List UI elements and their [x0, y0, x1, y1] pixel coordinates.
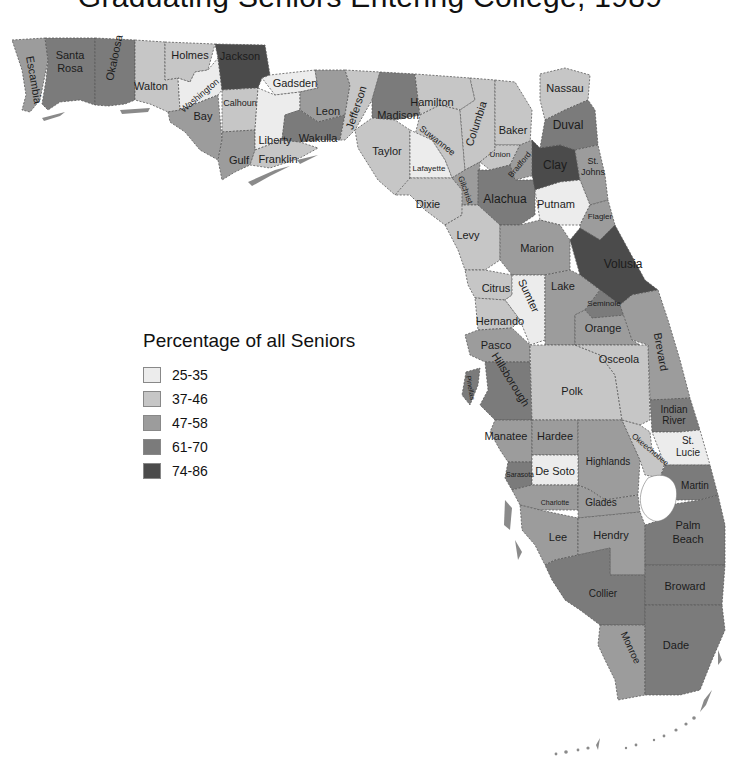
label-dixie: Dixie: [416, 198, 440, 210]
legend-label: 37-46: [172, 391, 208, 407]
label-jackson: Jackson: [220, 50, 260, 62]
label-glades: Glades: [585, 497, 617, 508]
legend-item: 74-86: [143, 460, 355, 482]
label-alachua: Alachua: [483, 192, 527, 206]
label-hamilton: Hamilton: [410, 96, 453, 108]
legend-item: 25-35: [143, 364, 355, 386]
label-franklin: Franklin: [258, 153, 297, 165]
legend-item: 61-70: [143, 436, 355, 458]
label-st-johns-2: Johns: [581, 167, 606, 177]
label-collier: Collier: [589, 588, 618, 599]
label-lafayette: Lafayette: [413, 164, 446, 173]
label-st-lucie-2: Lucie: [676, 447, 700, 458]
legend-swatch: [143, 391, 161, 407]
label-taylor: Taylor: [372, 145, 402, 157]
label-flagler: Flagler: [588, 212, 613, 221]
label-de-soto: De Soto: [535, 465, 575, 477]
label-st-johns-1: St.: [587, 156, 598, 166]
label-holmes: Holmes: [171, 49, 209, 61]
label-levy: Levy: [456, 229, 480, 241]
label-broward: Broward: [665, 580, 706, 592]
label-charlotte: Charlotte: [541, 499, 570, 506]
label-santa-rosa-1: Santa: [56, 49, 86, 61]
label-indian-river-2: River: [662, 415, 686, 426]
label-liberty: Liberty: [258, 134, 292, 146]
label-clay: Clay: [543, 158, 567, 172]
label-orange: Orange: [585, 322, 622, 334]
label-seminole: Seminole: [587, 299, 621, 308]
legend-title: Percentage of all Seniors: [143, 330, 355, 352]
florida-county-map: Escambia Santa Rosa Okaloosa Walton Holm…: [0, 0, 740, 781]
label-santa-rosa-2: Rosa: [57, 62, 84, 74]
label-polk: Polk: [561, 385, 583, 397]
legend-label: 47-58: [172, 415, 208, 431]
legend-swatch: [143, 415, 161, 431]
label-putnam: Putnam: [537, 198, 575, 210]
legend-swatch: [143, 439, 161, 455]
county-calhoun[interactable]: [222, 88, 258, 132]
label-hendry: Hendry: [593, 529, 629, 541]
label-madison: Madison: [377, 109, 419, 121]
label-dade: Dade: [663, 639, 689, 651]
label-gadsden: Gadsden: [273, 77, 318, 89]
label-hardee: Hardee: [537, 430, 573, 442]
label-highlands: Highlands: [586, 456, 630, 467]
label-volusia: Volusia: [604, 257, 643, 271]
label-hernando: Hernando: [476, 315, 524, 327]
legend-label: 74-86: [172, 463, 208, 479]
label-sarasota: Sarasota: [506, 471, 534, 478]
label-wakulla: Wakulla: [299, 132, 339, 144]
label-calhoun: Calhoun: [223, 98, 257, 108]
label-citrus: Citrus: [482, 282, 511, 294]
legend-item: 47-58: [143, 412, 355, 434]
label-nassau: Nassau: [546, 82, 583, 94]
label-palm-beach-1: Palm: [675, 519, 700, 531]
label-palm-beach-2: Beach: [672, 533, 703, 545]
label-duval: Duval: [553, 118, 584, 132]
label-union: Union: [490, 150, 511, 159]
legend-swatch: [143, 367, 161, 383]
legend-label: 25-35: [172, 367, 208, 383]
label-martin: Martin: [681, 480, 709, 491]
label-leon: Leon: [316, 105, 340, 117]
label-st-lucie-1: St.: [682, 435, 694, 446]
label-gulf: Gulf: [229, 154, 250, 166]
label-osceola: Osceola: [599, 353, 640, 365]
label-lake: Lake: [551, 280, 575, 292]
label-lee: Lee: [549, 531, 567, 543]
legend: Percentage of all Seniors 25-35 37-46 47…: [143, 330, 355, 484]
legend-swatch: [143, 463, 161, 479]
legend-label: 61-70: [172, 439, 208, 455]
label-marion: Marion: [520, 242, 554, 254]
label-indian-river-1: Indian: [660, 404, 687, 415]
label-manatee: Manatee: [485, 430, 528, 442]
legend-item: 37-46: [143, 388, 355, 410]
label-baker: Baker: [499, 124, 528, 136]
label-bay: Bay: [194, 110, 213, 122]
label-walton: Walton: [134, 80, 168, 92]
label-pasco: Pasco: [481, 339, 512, 351]
